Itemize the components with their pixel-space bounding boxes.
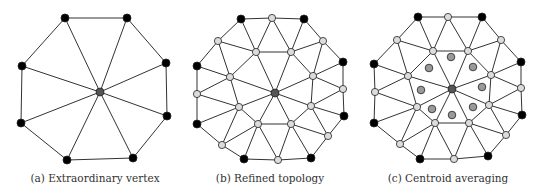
spoke-midpoint-vertex xyxy=(287,120,294,127)
mesh-edge xyxy=(374,40,397,64)
mesh-edge xyxy=(258,93,275,124)
edge-midpoint-vertex xyxy=(502,131,509,138)
mesh-edge xyxy=(65,18,100,92)
edge-midpoint-vertex xyxy=(517,84,524,91)
spoke-midpoint-vertex xyxy=(465,119,472,126)
mesh-edge xyxy=(374,123,400,144)
mesh-edge xyxy=(491,62,521,75)
panel-extraordinary-vertex xyxy=(17,14,171,164)
mesh-edge xyxy=(22,66,100,92)
mesh-edge xyxy=(311,76,313,106)
mesh-edge xyxy=(491,40,501,75)
original-vertex xyxy=(163,112,171,120)
edge-midpoint-vertex xyxy=(497,36,504,43)
mesh-edge xyxy=(278,158,311,160)
mesh-edge xyxy=(241,18,272,19)
original-vertex xyxy=(63,156,71,164)
mesh-edge xyxy=(482,17,501,40)
mesh-edge xyxy=(272,18,291,52)
mesh-edge xyxy=(501,40,521,62)
mesh-edge xyxy=(244,124,258,159)
spoke-midpoint-vertex xyxy=(309,72,316,79)
spoke-midpoint-vertex xyxy=(431,119,438,126)
original-vertex xyxy=(193,120,201,128)
original-vertex xyxy=(518,111,526,119)
original-vertex xyxy=(517,58,525,66)
mesh-edge xyxy=(197,66,230,77)
spoke-midpoint-vertex xyxy=(429,47,436,54)
extraordinary-vertex xyxy=(271,89,279,97)
mesh-edge xyxy=(239,93,275,107)
mesh-edge xyxy=(375,76,408,92)
mesh-edge xyxy=(218,19,241,41)
mesh-edge xyxy=(197,94,239,107)
spoke-midpoint-vertex xyxy=(307,102,314,109)
mesh-edge xyxy=(408,76,452,89)
edge-midpoint-vertex xyxy=(268,14,275,21)
original-vertex xyxy=(340,112,348,120)
edge-midpoint-vertex xyxy=(371,88,378,95)
mesh-edge xyxy=(291,106,311,124)
extraordinary-vertex xyxy=(448,85,456,93)
mesh-edge xyxy=(22,18,65,66)
mesh-edge xyxy=(418,17,433,51)
centroid-point xyxy=(469,63,477,71)
original-vertex xyxy=(18,62,26,70)
mesh-edge xyxy=(468,51,491,75)
original-vertex xyxy=(129,154,137,162)
spoke-midpoint-vertex xyxy=(404,72,411,79)
edge-midpoint-vertex xyxy=(214,37,221,44)
extraordinary-vertex xyxy=(96,88,104,96)
mesh-edge xyxy=(291,52,313,76)
mesh-edge xyxy=(21,123,67,160)
spoke-midpoint-vertex xyxy=(487,71,494,78)
mesh-edge xyxy=(256,18,272,52)
mesh-edge xyxy=(127,18,166,63)
centroid-point xyxy=(448,111,456,119)
mesh-edge xyxy=(241,19,256,52)
mesh-edge xyxy=(272,18,304,19)
mesh-edge xyxy=(375,92,417,107)
mesh-edge xyxy=(397,17,418,40)
mesh-edge xyxy=(21,66,22,123)
mesh-edge xyxy=(67,92,100,160)
edge-midpoint-vertex xyxy=(396,140,403,147)
original-vertex xyxy=(339,58,347,66)
mesh-edge xyxy=(397,40,433,51)
spoke-midpoint-vertex xyxy=(226,73,233,80)
mesh-edge xyxy=(397,40,408,76)
mesh-edge xyxy=(230,77,239,107)
edge-midpoint-vertex xyxy=(339,85,346,92)
panel-centroid-averaging xyxy=(370,13,526,163)
mesh-edge xyxy=(491,75,521,88)
subdivision-diagram xyxy=(0,0,542,195)
caption-b: (b) Refined topology xyxy=(216,170,324,186)
centroid-point xyxy=(425,64,433,72)
mesh-edge xyxy=(222,124,258,145)
spoke-midpoint-vertex xyxy=(252,48,259,55)
edge-midpoint-vertex xyxy=(193,90,200,97)
mesh-edge xyxy=(374,64,408,76)
mesh-edge xyxy=(218,41,230,77)
mesh-edge xyxy=(313,76,343,89)
original-vertex xyxy=(17,119,25,127)
original-vertex xyxy=(307,154,315,162)
mesh-edge xyxy=(258,124,278,160)
mesh-edge xyxy=(291,41,323,52)
mesh-edge xyxy=(100,63,166,92)
centroid-point xyxy=(417,86,425,94)
mesh-edge xyxy=(420,123,435,159)
mesh-edge xyxy=(433,17,448,51)
mesh-edge xyxy=(408,51,433,76)
mesh-edge xyxy=(435,123,454,159)
mesh-edge xyxy=(313,41,323,76)
mesh-edge xyxy=(454,156,488,159)
original-vertex xyxy=(240,155,248,163)
caption-c: (c) Centroid averaging xyxy=(388,170,509,186)
mesh-edge xyxy=(468,17,482,51)
mesh-edge xyxy=(452,89,489,105)
original-vertex xyxy=(193,62,201,70)
mesh-edge xyxy=(100,18,127,92)
mesh-edge xyxy=(21,92,100,123)
mesh-edge xyxy=(166,63,167,116)
